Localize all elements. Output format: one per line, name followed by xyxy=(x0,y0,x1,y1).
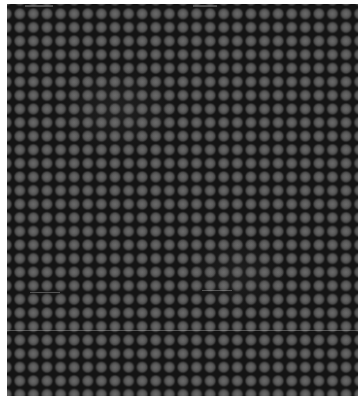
bright-region xyxy=(57,64,177,154)
dot-array-image xyxy=(7,4,358,396)
scan-line xyxy=(7,330,358,331)
bright-region xyxy=(187,234,287,314)
scan-artifact xyxy=(193,5,217,7)
scan-artifact xyxy=(25,5,53,7)
scan-artifact xyxy=(202,290,232,291)
scan-artifact xyxy=(30,292,60,293)
